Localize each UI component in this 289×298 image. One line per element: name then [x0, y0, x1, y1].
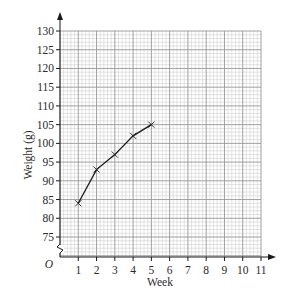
y-tick-label: 130	[37, 25, 55, 37]
x-tick-label: 6	[167, 264, 173, 276]
y-tick-label: 90	[43, 175, 55, 187]
ticks: 1234567891011758085909510010511011512012…	[37, 25, 267, 276]
x-axis-label: Week	[147, 276, 173, 288]
y-axis-label: Weight (g)	[22, 130, 35, 179]
minor-grid	[60, 31, 261, 257]
y-tick-label: 75	[43, 231, 55, 243]
x-tick-label: 11	[255, 264, 266, 276]
x-tick-label: 2	[94, 264, 100, 276]
x-tick-label: 4	[130, 264, 136, 276]
y-tick-label: 115	[37, 81, 54, 93]
x-tick-label: 5	[148, 264, 154, 276]
x-axis-arrow-icon	[268, 254, 276, 260]
y-tick-label: 125	[37, 44, 55, 56]
y-tick-label: 110	[37, 100, 54, 112]
y-tick-label: 80	[43, 212, 55, 224]
y-tick-label: 85	[43, 194, 55, 206]
x-tick-label: 8	[203, 264, 209, 276]
y-tick-label: 105	[37, 119, 55, 131]
x-tick-label: 1	[75, 264, 81, 276]
y-tick-label: 100	[37, 137, 55, 149]
x-tick-label: 9	[222, 264, 228, 276]
y-tick-label: 95	[43, 156, 55, 168]
x-tick-label: 10	[237, 264, 249, 276]
x-tick-label: 3	[112, 264, 118, 276]
y-axis-arrow-icon	[57, 12, 63, 20]
origin-label: O	[45, 258, 54, 270]
line-chart: 1234567891011758085909510010511011512012…	[0, 0, 289, 298]
x-tick-label: 7	[185, 264, 191, 276]
y-tick-label: 120	[37, 62, 55, 74]
